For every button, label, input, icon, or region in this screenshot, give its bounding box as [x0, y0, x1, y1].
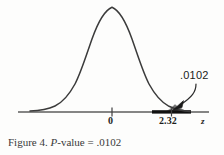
normal-curve-plot — [0, 0, 224, 132]
figure-caption: Figure 4. P-value = .0102 — [8, 135, 121, 149]
caption-suffix: -value = .0102 — [57, 136, 121, 148]
x-axis-variable-label: z — [201, 116, 205, 126]
tail-area-annotation-label: .0102 — [180, 69, 209, 81]
figure-container: 0 2.32 z .0102 Figure 4. P-value = .0102 — [0, 0, 224, 155]
x-axis-tick-label-zero: 0 — [108, 116, 113, 126]
normal-density-curve — [30, 7, 190, 111]
caption-prefix: Figure 4. — [8, 136, 50, 148]
x-axis-tick-label-critical: 2.32 — [159, 116, 177, 126]
plot-svg — [0, 0, 224, 132]
